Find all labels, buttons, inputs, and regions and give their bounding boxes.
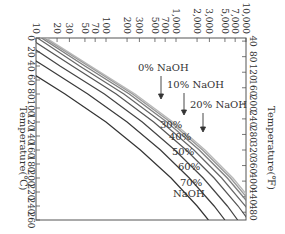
fahrenheit-axis-title: Temperature(℉) xyxy=(266,106,277,190)
celsius-tick-label: 260 xyxy=(26,211,36,228)
label-naoh: NaOH xyxy=(173,188,205,199)
pressure-tick-label: 500 xyxy=(150,17,160,34)
pressure-tick-label: 300 xyxy=(134,17,144,34)
pressure-tick-label: 5,000 xyxy=(220,8,230,34)
celsius-tick-label: 80 xyxy=(26,88,36,100)
label-10pct: 10% NaOH xyxy=(167,79,224,90)
fahrenheit-tick-label: 480 xyxy=(248,204,258,221)
celsius-tick-label: 60 xyxy=(26,74,36,86)
fahrenheit-tick-label: 80 xyxy=(248,51,258,63)
fahrenheit-axis: 4080120160200240280320360400440480 xyxy=(242,35,258,221)
fahrenheit-tick-label: 40 xyxy=(248,35,258,47)
pressure-tick-label: 200 xyxy=(122,17,132,34)
pressure-tick-label: 10,000 xyxy=(241,3,251,35)
label-60pct: 60% xyxy=(178,161,200,172)
label-0pct: 0% NaOH xyxy=(138,62,189,73)
pressure-tick-label: 700 xyxy=(160,17,170,34)
pressure-tick-label: 7,000 xyxy=(230,8,240,34)
pressure-tick-label: 1,000 xyxy=(171,8,181,34)
pressure-tick-label: 3,000 xyxy=(204,8,214,34)
pressure-tick-label: 50 xyxy=(80,23,90,35)
celsius-axis-title: Temperature(℃) xyxy=(18,106,29,191)
pressure-tick-label: 2,000 xyxy=(192,8,202,34)
label-70pct: 70% xyxy=(180,177,202,188)
pressure-tick-label: 70 xyxy=(90,23,100,35)
celsius-tick-label: 0 xyxy=(26,35,36,41)
pressure-tick-label: 10 xyxy=(31,23,41,35)
pressure-tick-label: 30 xyxy=(64,23,74,35)
pressure-tick-label: 20 xyxy=(52,23,62,35)
celsius-tick-label: 40 xyxy=(26,60,36,72)
naoh-vapor-pressure-chart: 10203050701002003005007001,0002,0003,000… xyxy=(0,0,285,234)
celsius-tick-label: 20 xyxy=(26,46,36,58)
pressure-axis: 10203050701002003005007001,0002,0003,000… xyxy=(31,3,251,43)
label-50pct: 50% xyxy=(172,146,194,157)
label-20pct: 20% NaOH xyxy=(190,99,247,110)
label-30pct: 30% xyxy=(160,119,182,130)
curves xyxy=(0,38,267,220)
label-40pct: 40% xyxy=(169,131,191,142)
pressure-tick-label: 100 xyxy=(101,17,111,34)
